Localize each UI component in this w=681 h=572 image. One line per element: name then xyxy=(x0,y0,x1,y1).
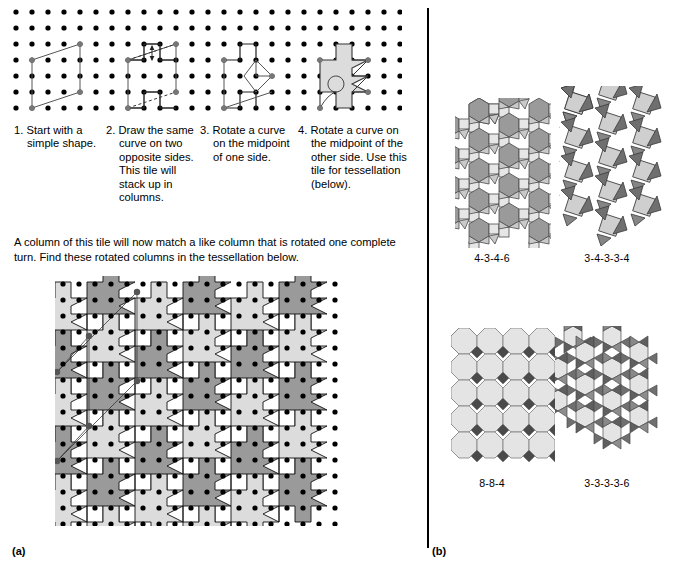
fig-8-8-4 xyxy=(451,328,555,466)
panel-b: 4-3-4-6 xyxy=(427,0,681,572)
fig-3-3-3-3-6 xyxy=(555,326,675,466)
step-number-1: 1. xyxy=(14,124,23,136)
panel-a: 1. Start with a simple shape. 2. Draw th… xyxy=(0,0,427,572)
fig-3-4-3-3-4 xyxy=(559,86,671,246)
main-tessellation xyxy=(55,276,345,526)
fig-4-3-4-6 xyxy=(455,98,551,248)
step-number-4: 4. xyxy=(298,124,307,136)
step-text-4: Rotate a curve on the midpoint of the ot… xyxy=(310,124,406,190)
step-caption-4: 4. Rotate a curve on the midpoint of the… xyxy=(298,124,408,191)
tessellation-intro-text: A column of this tile will now match a l… xyxy=(14,235,404,264)
figure-page: 1. Start with a simple shape. 2. Draw th… xyxy=(0,0,681,572)
step-text-2: Draw the same curve on two opposite side… xyxy=(118,124,193,203)
step-number-2: 2. xyxy=(106,124,115,136)
step-construction-diagrams xyxy=(12,8,402,120)
step-text-3: Rotate a curve on the midpoint of one si… xyxy=(212,124,289,163)
step-caption-3: 3. Rotate a curve on the midpoint of one… xyxy=(200,124,296,164)
step-number-3: 3. xyxy=(200,124,209,136)
step-caption-1: 1. Start with a simple shape. xyxy=(14,124,104,151)
fig-3-4-3-3-4-caption: 3-4-3-3-4 xyxy=(537,252,677,264)
panel-a-label: (a) xyxy=(12,545,25,557)
step-text-1: Start with a simple shape. xyxy=(26,124,96,149)
panel-b-label: (b) xyxy=(432,545,446,557)
fig-3-3-3-3-6-caption: 3-3-3-3-6 xyxy=(537,477,677,489)
step-caption-2: 2. Draw the same curve on two opposite s… xyxy=(106,124,198,204)
